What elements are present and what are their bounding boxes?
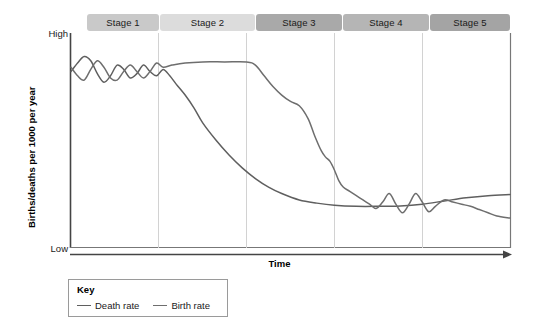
x-axis-arrow [70,251,512,259]
demographic-transition-chart: Stage 1 Stage 2 Stage 3 Stage 4 Stage 5 … [0,0,559,333]
legend-item-death-rate: Death rate [77,300,139,311]
stage-dividers [159,33,423,248]
birth-rate-curve [71,61,510,218]
legend-label: Death rate [95,300,139,311]
death-rate-curve [71,56,510,206]
legend: Key Death rate Birth rate [68,279,228,317]
legend-entries: Death rate Birth rate [77,300,210,311]
birth-rate-line-icon [153,305,167,306]
death-rate-line-icon [77,305,91,306]
legend-title: Key [77,284,94,295]
legend-item-birth-rate: Birth rate [153,300,210,311]
legend-label: Birth rate [171,300,210,311]
